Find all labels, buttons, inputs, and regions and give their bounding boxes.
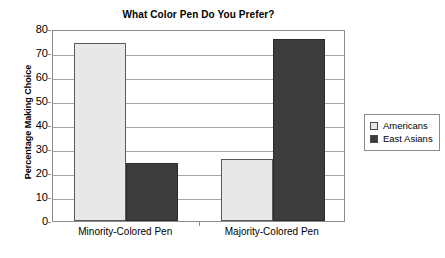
y-axis-tick-label: 60 xyxy=(4,72,48,83)
y-axis-tick-label: 40 xyxy=(4,120,48,131)
legend-swatch-icon xyxy=(370,135,378,143)
x-axis-tick-mark xyxy=(199,222,200,226)
legend-label: East Asians xyxy=(383,134,433,144)
bar xyxy=(74,43,126,221)
bar xyxy=(273,39,325,221)
x-axis-tick-label: Minority-Colored Pen xyxy=(78,226,172,237)
plot-area xyxy=(52,30,345,222)
y-axis-tick-label: 30 xyxy=(4,144,48,155)
y-axis-tick-label: 80 xyxy=(4,24,48,35)
y-axis-tick-label: 50 xyxy=(4,96,48,107)
y-axis-tick-labels: 01020304050607080 xyxy=(0,30,48,222)
y-axis-tick-mark xyxy=(46,150,51,151)
y-axis-tick-mark xyxy=(46,126,51,127)
legend-item[interactable]: Americans xyxy=(370,120,435,132)
x-axis-tick-label: Majority-Colored Pen xyxy=(225,226,319,237)
chart-title: What Color Pen Do You Prefer? xyxy=(52,9,345,20)
y-axis-tick-mark xyxy=(46,78,51,79)
chart-legend: AmericansEast Asians xyxy=(364,114,440,151)
legend-swatch-icon xyxy=(370,122,378,130)
y-axis-tick-mark xyxy=(46,102,51,103)
y-axis-tick-mark xyxy=(46,198,51,199)
y-axis-tick-label: 20 xyxy=(4,168,48,179)
y-axis-tick-label: 70 xyxy=(4,48,48,59)
bar xyxy=(126,163,178,221)
y-axis-tick-mark xyxy=(46,30,51,31)
legend-label: Americans xyxy=(383,121,428,131)
x-axis-tick-labels: Minority-Colored PenMajority-Colored Pen xyxy=(52,226,345,242)
bar xyxy=(221,159,273,221)
y-axis-tick-label: 0 xyxy=(4,216,48,227)
legend-item[interactable]: East Asians xyxy=(370,133,435,145)
bar-chart-figure: What Color Pen Do You Prefer? Percentage… xyxy=(0,0,445,258)
y-axis-tick-mark xyxy=(46,174,51,175)
y-axis-tick-mark xyxy=(46,54,51,55)
y-axis-tick-label: 10 xyxy=(4,192,48,203)
y-axis-tick-mark xyxy=(46,222,51,223)
